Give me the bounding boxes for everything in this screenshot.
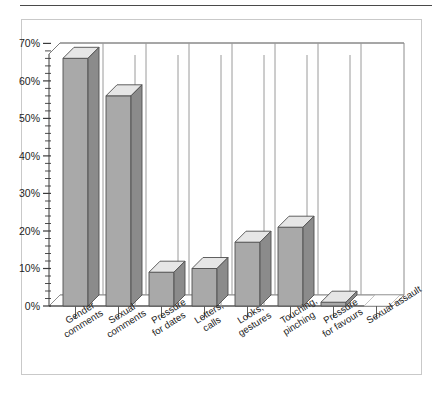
bar-touching-pinching[interactable] xyxy=(278,216,314,306)
bar-letters-calls[interactable] xyxy=(192,258,228,307)
plot-depth-edges xyxy=(49,43,60,306)
bar-gender-comments[interactable] xyxy=(63,47,99,306)
chart-stage: 0% 10% 20% 30% 40% 50% 60% 70% xyxy=(0,0,445,395)
y-major-ticks xyxy=(43,43,51,306)
y-tick-label-10: 10% xyxy=(19,262,40,274)
y-tick-label-50: 50% xyxy=(19,112,40,124)
bar-chart-svg: 0% 10% 20% 30% 40% 50% 60% 70% xyxy=(0,0,445,395)
bar-looks-gestures[interactable] xyxy=(235,231,271,306)
bar-sexual-comments[interactable] xyxy=(106,85,142,306)
y-tick-label-20: 20% xyxy=(19,225,40,237)
y-tick-label-40: 40% xyxy=(19,150,40,162)
y-axis: 0% 10% 20% 30% 40% 50% 60% 70% xyxy=(19,37,51,312)
y-minor-ticks xyxy=(45,51,51,299)
y-tick-label-0: 0% xyxy=(25,300,40,312)
y-tick-label-70: 70% xyxy=(19,37,40,49)
y-tick-label-60: 60% xyxy=(19,75,40,87)
y-tick-label-30: 30% xyxy=(19,187,40,199)
